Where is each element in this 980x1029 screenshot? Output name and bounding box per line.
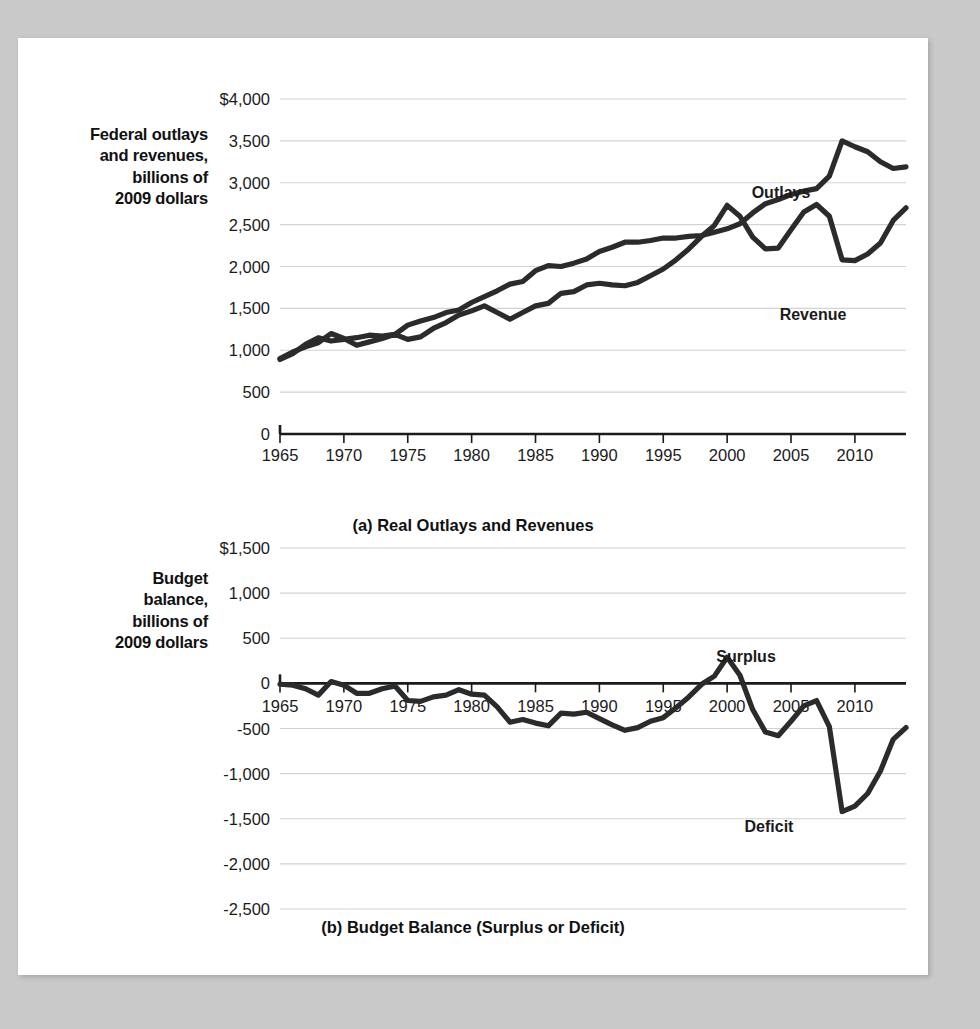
- panel-b-label-surplus: Surplus: [716, 648, 776, 666]
- data-series-budget-balance: [280, 657, 906, 811]
- figure-container: Federal outlays and revenues, billions o…: [18, 38, 928, 975]
- figure-page: Federal outlays and revenues, billions o…: [18, 38, 928, 975]
- panel-b-label-deficit: Deficit: [745, 818, 794, 836]
- panel-b-caption: (b) Budget Balance (Surplus or Deficit): [18, 918, 928, 937]
